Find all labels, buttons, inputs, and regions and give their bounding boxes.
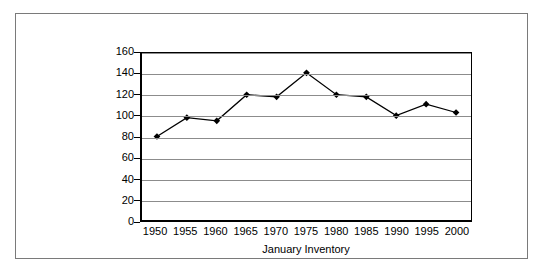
y-axis-tick-label: 160 [106, 46, 134, 57]
gridline [142, 138, 471, 139]
figure-frame: 020406080100120140160 Million of Head 19… [15, 13, 528, 259]
y-axis-tick-label: 80 [106, 131, 134, 142]
gridline [142, 53, 471, 54]
gridline [142, 180, 471, 181]
y-axis-tick-mark [134, 94, 140, 95]
line-series-svg [142, 53, 471, 220]
y-axis-tick-mark [134, 222, 140, 223]
y-axis-tick-mark [134, 115, 140, 116]
y-axis-tick-label: 20 [106, 195, 134, 206]
gridline [142, 201, 471, 202]
x-axis-tick-label: 2000 [437, 225, 477, 238]
y-axis-tick-mark [134, 158, 140, 159]
x-axis-title: January Inventory [140, 243, 472, 255]
data-point-marker [453, 109, 460, 116]
gridline [142, 159, 471, 160]
x-axis-tick-labels: 1950195519601965197019751980198519901995… [140, 225, 472, 239]
y-axis-tick-mark [134, 137, 140, 138]
chart-screenshot: 020406080100120140160 Million of Head 19… [0, 0, 543, 275]
y-axis-tick-label: 140 [106, 67, 134, 78]
series-line [157, 73, 456, 137]
y-axis-tick-label: 120 [106, 89, 134, 100]
y-axis-tick-mark [134, 73, 140, 74]
y-axis-tick-label: 40 [106, 174, 134, 185]
plot-area [140, 52, 472, 222]
gridline [142, 74, 471, 75]
y-axis-tick-mark [134, 179, 140, 180]
y-axis-title-container: Million of Head [84, 52, 98, 222]
y-axis-tick-labels: 020406080100120140160 [104, 52, 134, 222]
y-axis-tick-label: 100 [106, 110, 134, 121]
gridline [142, 95, 471, 96]
y-axis-tick-mark [134, 52, 140, 53]
y-axis-tick-label: 0 [106, 216, 134, 227]
gridline [142, 116, 471, 117]
data-point-marker [154, 133, 161, 140]
y-axis-tick-mark [134, 200, 140, 201]
data-point-marker [423, 101, 430, 108]
y-axis-tick-label: 60 [106, 152, 134, 163]
